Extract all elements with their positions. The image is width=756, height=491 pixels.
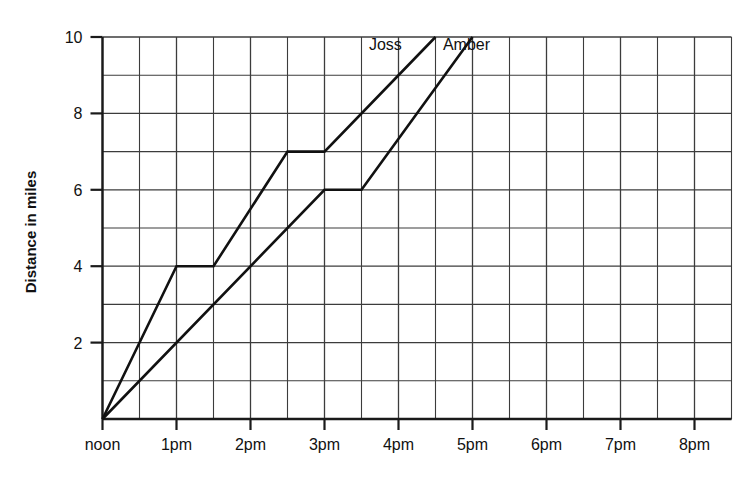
y-tick-label: 10 [65, 29, 83, 46]
y-tick-label: 8 [74, 105, 83, 122]
y-tick-label: 4 [74, 258, 83, 275]
y-tick-label: 2 [74, 335, 83, 352]
x-tick-label: 3pm [309, 436, 340, 453]
x-tick-label: 4pm [383, 436, 414, 453]
chart-page: noon1pm2pm3pm4pm5pm6pm7pm8pm 246810 Joss… [0, 0, 756, 491]
x-axis-tick-labels: noon1pm2pm3pm4pm5pm6pm7pm8pm [85, 436, 710, 453]
series-label-joss: Joss [369, 36, 402, 53]
y-tick-label: 6 [74, 182, 83, 199]
x-tick-label: 6pm [531, 436, 562, 453]
x-tick-label: 5pm [457, 436, 488, 453]
x-tick-label: 2pm [235, 436, 266, 453]
y-axis-title: Distance in miles [22, 171, 39, 294]
chart-background [0, 0, 756, 491]
x-tick-label: noon [85, 436, 121, 453]
x-tick-label: 7pm [605, 436, 636, 453]
series-label-amber: Amber [443, 36, 491, 53]
distance-time-line-chart: noon1pm2pm3pm4pm5pm6pm7pm8pm 246810 Joss… [0, 0, 756, 491]
x-tick-label: 1pm [161, 436, 192, 453]
x-tick-label: 8pm [679, 436, 710, 453]
